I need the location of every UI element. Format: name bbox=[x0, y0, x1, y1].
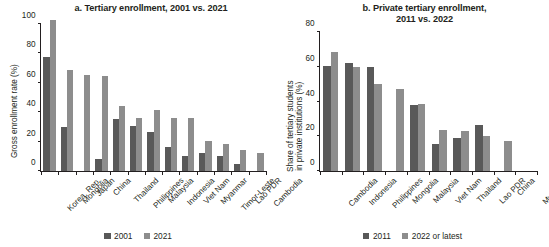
bar-group bbox=[128, 24, 145, 171]
bar bbox=[367, 67, 375, 171]
legend-swatch-icon bbox=[363, 233, 370, 240]
bar bbox=[171, 118, 177, 171]
bar bbox=[461, 131, 469, 171]
bar bbox=[119, 106, 125, 171]
bar bbox=[453, 138, 461, 171]
bar bbox=[353, 67, 361, 171]
y-tick-label: 100 bbox=[22, 11, 36, 20]
y-tick-label: 80 bbox=[26, 40, 35, 49]
bar-group bbox=[214, 24, 231, 171]
bar bbox=[50, 20, 56, 171]
legend-item: 2022 or latest bbox=[402, 231, 462, 241]
bar-group bbox=[58, 24, 75, 171]
legend-item: 2011 bbox=[363, 231, 391, 241]
panel-a-bar-groups bbox=[41, 24, 266, 171]
panel-a-y-axis-label: Gross enrollment rate (%) bbox=[10, 64, 19, 158]
bar-group bbox=[494, 32, 516, 171]
bar-group bbox=[162, 24, 179, 171]
y-tick-label: 60 bbox=[305, 53, 314, 62]
bar-group bbox=[407, 32, 429, 171]
y-tick bbox=[38, 141, 42, 142]
bar-group bbox=[41, 24, 58, 171]
legend-label: 2022 or latest bbox=[412, 231, 462, 241]
bar bbox=[439, 130, 447, 171]
panel-b-y-axis-label-line1: Share of tertiary students bbox=[286, 81, 295, 172]
bar-group bbox=[342, 32, 364, 171]
figure-two-panel-bar-charts: a. Tertiary enrollment, 2001 vs. 2021 Gr… bbox=[0, 0, 549, 247]
bar bbox=[323, 66, 331, 171]
legend-swatch-icon bbox=[104, 233, 111, 240]
y-tick bbox=[38, 23, 42, 24]
bar-group bbox=[249, 24, 266, 171]
panel-a-x-category-labels: Korea, Rep.MongoliaJapanChinaThailandPhi… bbox=[41, 171, 266, 231]
panel-b-plot-area: 020406080 CambodiaIndonesiaPhilippinesMo… bbox=[319, 32, 537, 172]
legend-item: 2001 bbox=[104, 231, 132, 241]
y-tick bbox=[38, 111, 42, 112]
legend-item: 2021 bbox=[144, 231, 172, 241]
y-tick-label: 60 bbox=[26, 69, 35, 78]
y-tick-label: 0 bbox=[31, 158, 36, 167]
panel-a-plot-area: 020406080100 Korea, Rep.MongoliaJapanChi… bbox=[40, 24, 266, 172]
y-tick-label: 0 bbox=[310, 158, 315, 167]
legend-swatch-icon bbox=[144, 233, 151, 240]
bar bbox=[432, 144, 440, 171]
bar-group bbox=[231, 24, 248, 171]
panel-a-legend: 20012021 bbox=[0, 231, 276, 241]
panel-b-bar-groups bbox=[320, 32, 537, 171]
bar-group bbox=[93, 24, 110, 171]
bar-group bbox=[450, 32, 472, 171]
y-tick-label: 40 bbox=[305, 88, 314, 97]
bar bbox=[154, 110, 160, 171]
y-tick-label: 40 bbox=[26, 99, 35, 108]
bar bbox=[396, 89, 404, 171]
x-tick bbox=[266, 171, 267, 175]
legend-label: 2011 bbox=[373, 231, 391, 241]
bar bbox=[418, 104, 426, 171]
panel-b-title-line2: 2011 vs. 2022 bbox=[306, 14, 543, 25]
bar bbox=[345, 63, 353, 171]
y-tick-label: 20 bbox=[305, 123, 314, 132]
bar-group bbox=[320, 32, 342, 171]
panel-a-title: a. Tertiary enrollment, 2001 vs. 2021 bbox=[0, 3, 276, 14]
panel-b-title-line1: b. Private tertiary enrollment, bbox=[306, 3, 543, 14]
y-tick-label: 20 bbox=[26, 128, 35, 137]
x-tick bbox=[537, 171, 538, 175]
panel-a-tertiary-enrollment: a. Tertiary enrollment, 2001 vs. 2021 Gr… bbox=[0, 0, 276, 247]
y-tick bbox=[38, 52, 42, 53]
bar bbox=[374, 84, 382, 172]
bar-group bbox=[197, 24, 214, 171]
bar bbox=[240, 150, 246, 171]
bar-group bbox=[515, 32, 537, 171]
y-tick bbox=[317, 101, 321, 102]
bar bbox=[410, 105, 418, 171]
x-category-label: China bbox=[112, 176, 133, 197]
bar bbox=[223, 144, 229, 171]
y-tick bbox=[38, 82, 42, 83]
bar bbox=[483, 136, 491, 171]
bar-group bbox=[76, 24, 93, 171]
panel-b-y-axis-label: Share of tertiary students in private in… bbox=[286, 81, 305, 172]
bar-group bbox=[472, 32, 494, 171]
bar bbox=[504, 141, 512, 171]
bar bbox=[331, 52, 339, 171]
panel-b-y-axis-label-line2: in private institutions (%) bbox=[295, 81, 304, 172]
x-category-label: Myanmar bbox=[541, 176, 549, 206]
bar bbox=[102, 76, 108, 171]
bar bbox=[136, 118, 142, 171]
panel-b-title: b. Private tertiary enrollment, 2011 vs.… bbox=[276, 3, 549, 25]
bar-group bbox=[180, 24, 197, 171]
y-tick bbox=[317, 66, 321, 67]
panel-b-legend: 20112022 or latest bbox=[276, 231, 549, 241]
bar-group bbox=[363, 32, 385, 171]
bar-group bbox=[429, 32, 451, 171]
bar bbox=[84, 75, 90, 171]
bar bbox=[188, 118, 194, 171]
bar-group bbox=[385, 32, 407, 171]
legend-swatch-icon bbox=[402, 233, 409, 240]
y-tick-label: 80 bbox=[305, 19, 314, 28]
y-tick bbox=[317, 31, 321, 32]
bar bbox=[67, 70, 73, 171]
panel-b-private-tertiary-enrollment: b. Private tertiary enrollment, 2011 vs.… bbox=[276, 0, 549, 247]
legend-label: 2021 bbox=[154, 231, 172, 241]
y-tick bbox=[317, 135, 321, 136]
